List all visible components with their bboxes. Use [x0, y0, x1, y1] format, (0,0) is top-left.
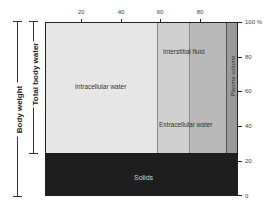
right-tick — [238, 195, 242, 196]
right-tick — [238, 161, 242, 162]
right-tick-label: 100 % — [245, 19, 262, 25]
right-tick — [238, 57, 242, 58]
plasma-volume-label: Plasma volume — [230, 51, 236, 101]
right-tick-label: 80 — [245, 54, 252, 60]
total-body-water-label: Total body water — [31, 42, 40, 108]
top-tick-label: 80 — [197, 9, 204, 15]
top-tick-label: 20 — [78, 9, 85, 15]
top-tick-label: 40 — [118, 9, 125, 15]
solids-label: Solids — [134, 174, 153, 181]
body-weight-label: Body weight — [15, 83, 24, 137]
right-tick-label: 0 — [245, 193, 248, 199]
total-body-water-bottom-cap — [29, 153, 38, 154]
right-tick — [238, 126, 242, 127]
right-tick — [238, 91, 242, 92]
interstitial-fluid-label: Interstitial fluid — [163, 48, 205, 55]
right-tick-label: 40 — [245, 123, 252, 129]
extracellular-water-label: Extracellular water — [159, 121, 212, 128]
right-tick-label: 60 — [245, 88, 252, 94]
body-composition-frame: Intracellular water Interstitial fluid E… — [45, 22, 238, 196]
top-tick-label: 60 — [157, 9, 164, 15]
right-tick — [238, 22, 242, 23]
intracellular-water-label: Intracellular water — [75, 83, 126, 90]
right-tick-label: 20 — [245, 158, 252, 164]
body-weight-bottom-cap — [13, 196, 22, 197]
